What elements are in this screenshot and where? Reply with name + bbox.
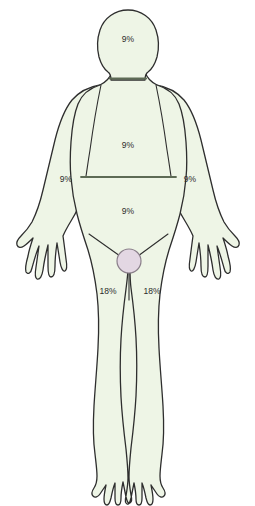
- label-left-leg-percent: 18%: [99, 286, 116, 296]
- label-head-percent: 9%: [122, 34, 135, 44]
- label-right-leg-percent: 18%: [143, 286, 160, 296]
- rule-of-nines-diagram: 9% 9% 9% 9% 9% 18% 18%: [0, 0, 255, 506]
- body-figure-svg: 9% 9% 9% 9% 9% 18% 18%: [0, 0, 255, 506]
- head-shape: [98, 10, 159, 80]
- label-lower-torso-percent: 9%: [122, 206, 135, 216]
- label-left-arm-percent: 9%: [60, 174, 73, 184]
- perineum-marker-icon: [117, 249, 141, 273]
- label-upper-torso-percent: 9%: [122, 140, 135, 150]
- label-right-arm-percent: 9%: [184, 174, 197, 184]
